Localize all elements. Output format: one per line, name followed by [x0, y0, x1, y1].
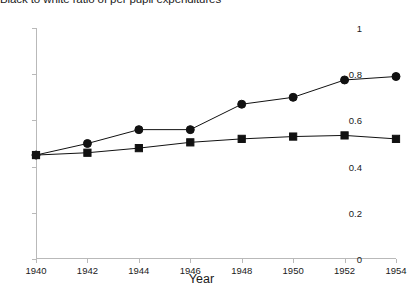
- series-layer: [36, 28, 396, 259]
- y-tick-label: 1: [357, 23, 362, 34]
- data-point-square: [187, 139, 194, 146]
- x-tick-mark: [242, 259, 243, 263]
- y-tick-label: 0.2: [349, 207, 362, 218]
- x-tick-mark: [293, 259, 294, 263]
- data-point-circle: [238, 100, 246, 108]
- x-tick-mark: [36, 259, 37, 263]
- y-tick-label: 0.8: [349, 69, 362, 80]
- data-point-circle: [186, 126, 194, 134]
- data-point-square: [84, 149, 91, 156]
- plot-area: [36, 28, 396, 259]
- data-point-circle: [392, 73, 400, 81]
- x-tick-mark: [87, 259, 88, 263]
- data-point-square: [290, 133, 297, 140]
- data-point-square: [238, 135, 245, 142]
- x-tick-mark: [345, 259, 346, 263]
- x-axis-title: Year: [0, 272, 403, 286]
- data-point-square: [341, 132, 348, 139]
- chart-title: Black to white ratio of per pupil expend…: [0, 0, 221, 5]
- data-point-circle: [341, 76, 349, 84]
- x-tick-mark: [396, 259, 397, 263]
- y-tick-label: 0: [357, 254, 362, 265]
- y-tick-label: 0.4: [349, 161, 362, 172]
- data-point-circle: [289, 93, 297, 101]
- data-point-square: [392, 135, 399, 142]
- data-point-square: [32, 151, 39, 158]
- data-point-square: [135, 145, 142, 152]
- data-point-circle: [135, 126, 143, 134]
- x-tick-mark: [190, 259, 191, 263]
- data-point-circle: [83, 140, 91, 148]
- y-tick-label: 0.6: [349, 115, 362, 126]
- x-tick-mark: [139, 259, 140, 263]
